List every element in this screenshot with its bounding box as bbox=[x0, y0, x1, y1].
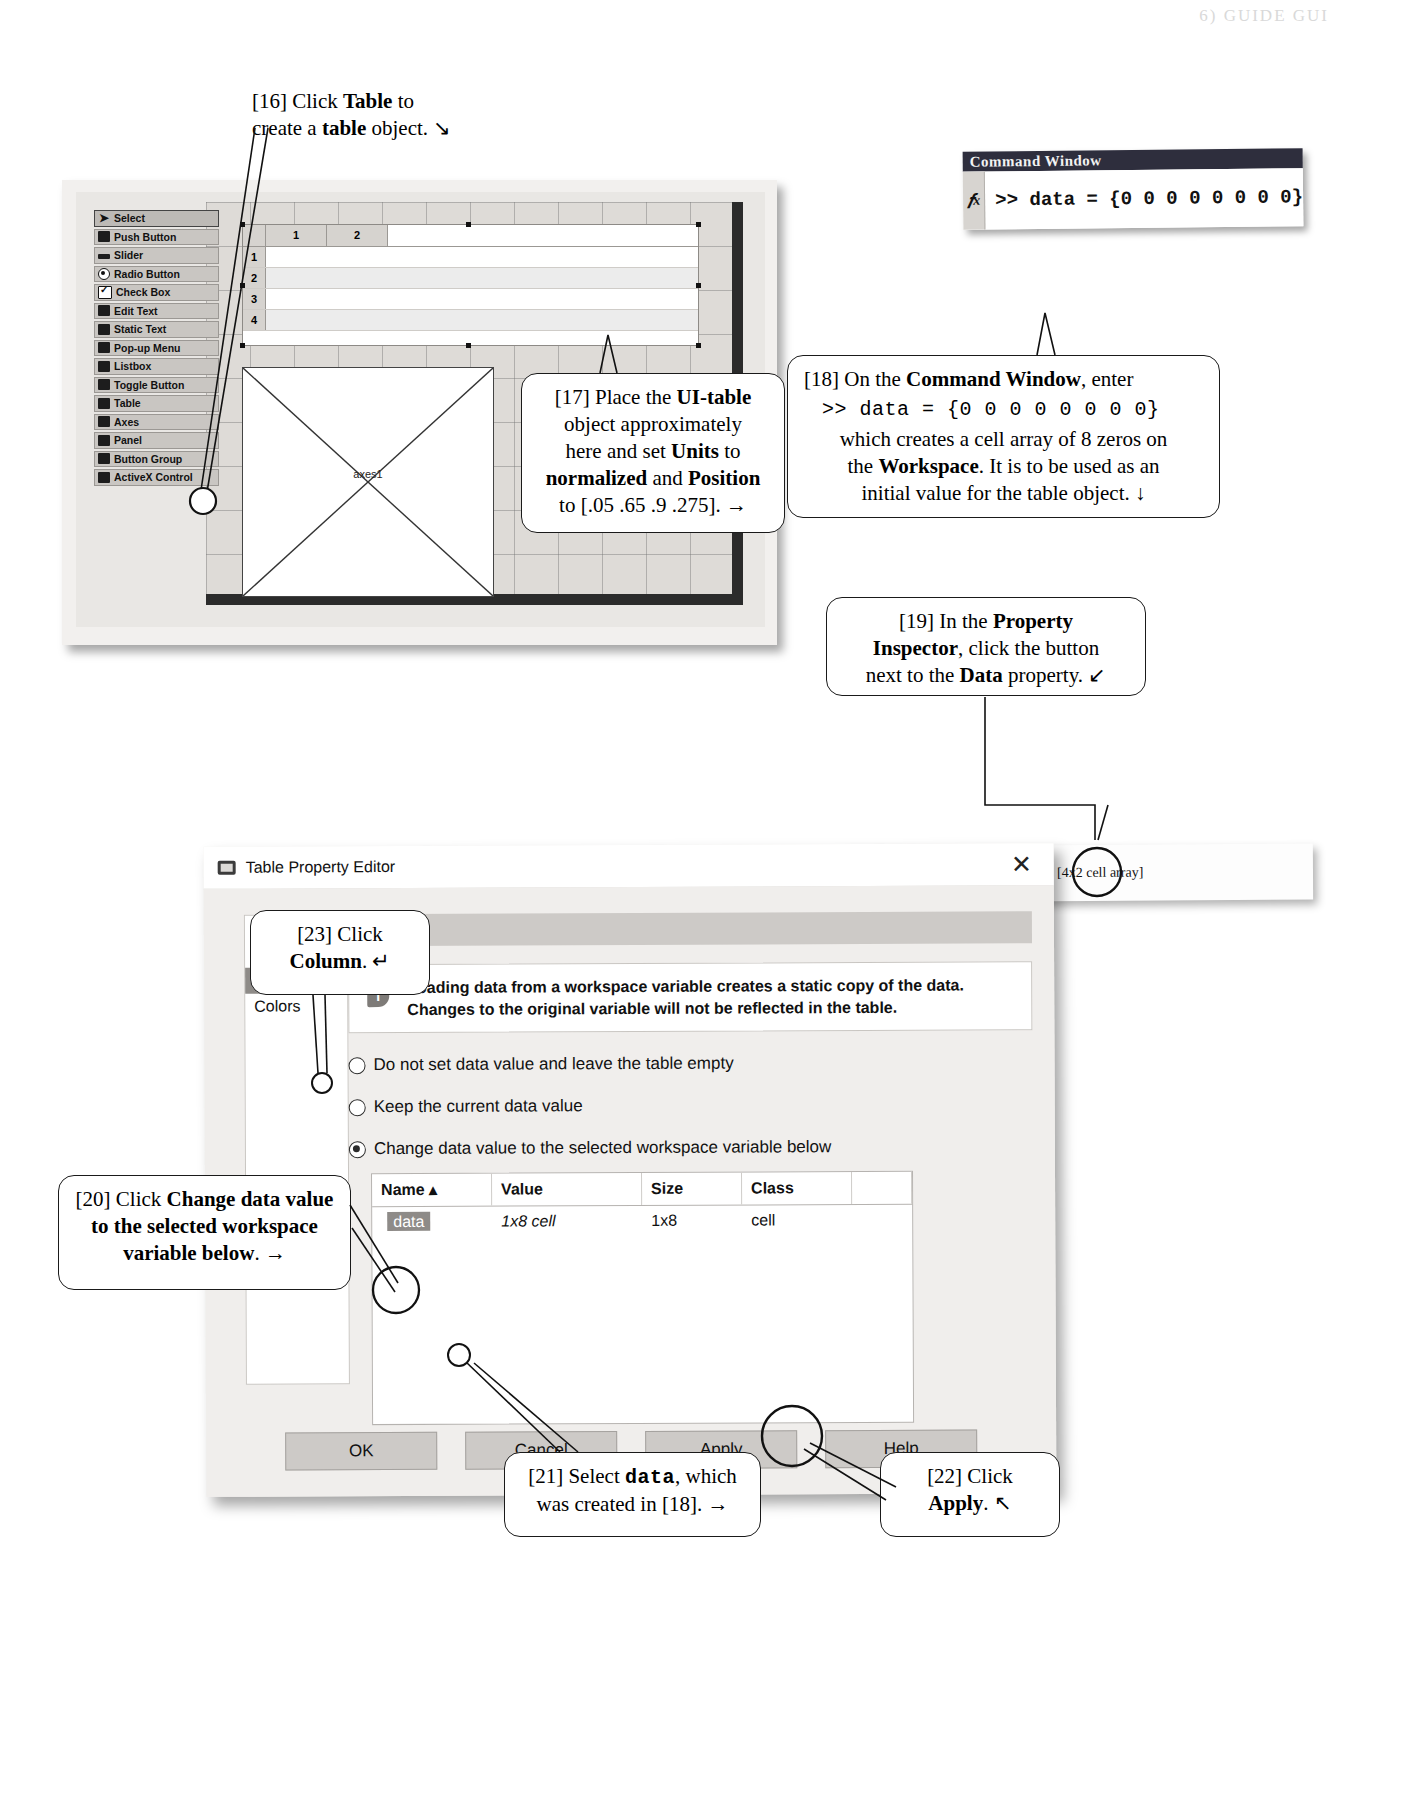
command-window-body[interactable]: 𝑓x >> data = {0 0 0 0 0 0 0 0} bbox=[963, 168, 1304, 230]
guide-table-cell bbox=[266, 289, 698, 309]
palette-item-edit-text[interactable]: Edit Text bbox=[94, 303, 219, 320]
palette-item-button-group[interactable]: Button Group bbox=[94, 451, 219, 468]
callout-18-l1-pre: [18] On the bbox=[804, 367, 906, 391]
callout-17-l3-pre: here and set bbox=[566, 439, 672, 463]
callout-18-l4-pre: the bbox=[847, 454, 878, 478]
resize-handle[interactable] bbox=[466, 222, 471, 227]
guide-table-cell bbox=[266, 247, 698, 267]
guide-uitable-preview[interactable]: 1 2 1 2 3 4 bbox=[242, 224, 699, 346]
palette-item-label: Check Box bbox=[116, 286, 170, 298]
palette-item-check-box[interactable]: Check Box bbox=[94, 284, 219, 301]
command-window[interactable]: Command Window 𝑓x >> data = {0 0 0 0 0 0… bbox=[963, 148, 1304, 230]
radio-icon[interactable] bbox=[349, 1099, 366, 1116]
palette-item-label: Select bbox=[114, 212, 145, 224]
resize-handle[interactable] bbox=[240, 222, 245, 227]
palette-item-label: Edit Text bbox=[114, 305, 158, 317]
table-icon bbox=[98, 398, 110, 409]
callout-17-l3-post: to bbox=[719, 439, 741, 463]
component-palette: ➤ Select Push Button Slider Radio Button… bbox=[94, 210, 219, 488]
radio-label: Do not set data value and leave the tabl… bbox=[373, 1054, 733, 1076]
workspace-variable-table[interactable]: Name ▴ Value Size Class data 1x8 cell 1x… bbox=[371, 1171, 914, 1425]
palette-item-static-text[interactable]: Static Text bbox=[94, 321, 219, 338]
palette-item-label: Static Text bbox=[114, 323, 166, 335]
column-header-extra[interactable] bbox=[852, 1172, 912, 1204]
guide-table-col-1: 1 bbox=[266, 225, 327, 246]
palette-item-label: Slider bbox=[114, 249, 143, 261]
radio-icon[interactable] bbox=[349, 1057, 366, 1074]
resize-handle[interactable] bbox=[466, 343, 471, 348]
callout-17-line5: to [.05 .65 .9 .275]. → bbox=[534, 492, 772, 519]
callout-22-line2: Apply. ↖ bbox=[893, 1490, 1047, 1517]
palette-item-label: ActiveX Control bbox=[114, 471, 193, 483]
variable-name-cell[interactable]: data bbox=[372, 1213, 492, 1232]
palette-item-popup-menu[interactable]: Pop-up Menu bbox=[94, 340, 219, 357]
palette-item-listbox[interactable]: Listbox bbox=[94, 358, 219, 375]
callout-21-line2: was created in [18]. → bbox=[517, 1491, 748, 1518]
callout-16-line1: [16] Click Table to bbox=[252, 88, 478, 115]
table-row[interactable]: data 1x8 cell 1x8 cell bbox=[372, 1205, 912, 1237]
callout-19-l3-pre: next to the bbox=[866, 663, 960, 687]
callout-18-line1: [18] On the Command Window, enter bbox=[800, 366, 1207, 393]
callout-16: [16] Click Table to create a table objec… bbox=[240, 78, 490, 156]
palette-item-select[interactable]: ➤ Select bbox=[94, 210, 219, 227]
arrow-cursor-icon: ➤ bbox=[98, 213, 110, 224]
radio-icon-selected[interactable] bbox=[349, 1141, 366, 1158]
column-header-name[interactable]: Name ▴ bbox=[372, 1174, 492, 1207]
static-text-icon bbox=[98, 324, 110, 335]
callout-19-line3: next to the Data property. ↙ bbox=[839, 662, 1133, 689]
callout-17-l4-b2: Position bbox=[688, 466, 760, 490]
radio-label: Keep the current data value bbox=[374, 1096, 583, 1117]
callout-17-l3-bold: Units bbox=[671, 439, 719, 463]
listbox-icon bbox=[98, 361, 110, 372]
column-header-class[interactable]: Class bbox=[742, 1172, 852, 1204]
nav-item-colors[interactable]: Colors bbox=[245, 993, 347, 1019]
axes-icon bbox=[98, 416, 110, 427]
leader-line-19 bbox=[985, 697, 1095, 840]
palette-item-radio-button[interactable]: Radio Button bbox=[94, 266, 219, 283]
resize-handle[interactable] bbox=[696, 343, 701, 348]
callout-17-line4: normalized and Position bbox=[534, 465, 772, 492]
callout-17-line3: here and set Units to bbox=[534, 438, 772, 465]
callout-21-line1: [21] Select data, which bbox=[517, 1463, 748, 1491]
palette-item-table[interactable]: Table bbox=[94, 395, 219, 412]
palette-item-activex-control[interactable]: ActiveX Control bbox=[94, 469, 219, 486]
guide-table-row-4: 4 bbox=[243, 310, 266, 330]
button-group-icon bbox=[98, 453, 110, 464]
palette-item-axes[interactable]: Axes bbox=[94, 414, 219, 431]
palette-item-push-button[interactable]: Push Button bbox=[94, 229, 219, 246]
callout-23-line2: Column. ↵ bbox=[263, 948, 417, 975]
callout-16-l2-bold: table bbox=[322, 116, 366, 140]
leader-line-19b bbox=[1098, 805, 1108, 840]
dialog-title-bar: Table Property Editor ✕ bbox=[204, 843, 1054, 890]
guide-table-corner bbox=[243, 225, 266, 246]
resize-handle[interactable] bbox=[240, 283, 245, 288]
resize-handle[interactable] bbox=[240, 343, 245, 348]
table-editor-icon bbox=[218, 861, 236, 875]
guide-axes-object[interactable]: axes1 bbox=[242, 367, 494, 597]
callout-18-l4-post: . It is to be used as an bbox=[979, 454, 1160, 478]
palette-item-toggle-button[interactable]: Toggle Button bbox=[94, 377, 219, 394]
column-header-size[interactable]: Size bbox=[642, 1173, 742, 1205]
radio-option-change-to-workspace-var[interactable]: Change data value to the selected worksp… bbox=[349, 1136, 1033, 1159]
guide-table-header-row: 1 2 bbox=[243, 225, 698, 247]
column-header-value[interactable]: Value bbox=[492, 1173, 642, 1206]
resize-handle[interactable] bbox=[696, 283, 701, 288]
leader-tail-18 bbox=[1037, 313, 1055, 355]
close-icon[interactable]: ✕ bbox=[1011, 852, 1032, 877]
palette-item-label: Table bbox=[114, 397, 141, 409]
palette-item-slider[interactable]: Slider bbox=[94, 247, 219, 264]
radio-option-empty[interactable]: Do not set data value and leave the tabl… bbox=[348, 1052, 1032, 1075]
callout-21-l1-post: , which bbox=[675, 1464, 737, 1488]
callout-19-line2: Inspector, click the button bbox=[839, 635, 1133, 662]
radio-option-keep-current[interactable]: Keep the current data value bbox=[349, 1094, 1033, 1117]
callout-19-l2-post: , click the button bbox=[958, 636, 1099, 660]
callout-20-l3-post: . → bbox=[254, 1241, 286, 1265]
dialog-main-panel: Data i Loading data from a workspace var… bbox=[348, 911, 1034, 1416]
guide-table-row-2: 2 bbox=[243, 268, 266, 288]
ok-button[interactable]: OK bbox=[285, 1432, 437, 1471]
callout-16-l1-pre: [16] Click bbox=[252, 89, 343, 113]
callout-17: [17] Place the UI-table object approxima… bbox=[521, 373, 785, 533]
palette-item-panel[interactable]: Panel bbox=[94, 432, 219, 449]
resize-handle[interactable] bbox=[696, 222, 701, 227]
callout-20-line3: variable below. → bbox=[71, 1240, 338, 1267]
